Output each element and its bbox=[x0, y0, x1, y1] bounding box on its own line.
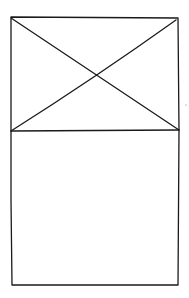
outer-frame bbox=[11, 17, 179, 285]
wireframe-card bbox=[0, 0, 189, 298]
image-placeholder-icon bbox=[11, 18, 179, 131]
stray-dot bbox=[185, 104, 187, 106]
divider-line bbox=[11, 130, 179, 131]
